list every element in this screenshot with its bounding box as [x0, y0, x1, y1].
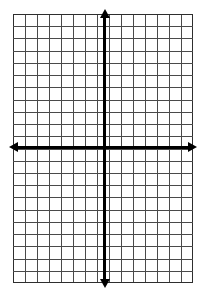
- grid-hline: [13, 173, 193, 174]
- grid-hline: [13, 185, 193, 186]
- grid-hline: [13, 51, 193, 52]
- grid-hline: [13, 26, 193, 27]
- grid-hline: [13, 112, 193, 113]
- grid-hline: [13, 100, 193, 101]
- grid-hline: [13, 149, 193, 150]
- grid-hline: [13, 222, 193, 223]
- grid-hline: [13, 259, 193, 260]
- grid-hline: [13, 75, 193, 76]
- grid-hline: [13, 246, 193, 247]
- grid-hline: [13, 197, 193, 198]
- grid-hline: [13, 63, 193, 64]
- grid-hline: [13, 282, 193, 283]
- coordinate-grid: [13, 14, 193, 283]
- grid-hline: [13, 271, 193, 272]
- grid-lines: [13, 14, 193, 283]
- grid-hline: [13, 124, 193, 125]
- grid-hline: [13, 210, 193, 211]
- grid-hline: [13, 38, 193, 39]
- grid-hline: [13, 87, 193, 88]
- grid-hline: [13, 136, 193, 137]
- worksheet-page: [0, 0, 207, 297]
- grid-hline: [13, 14, 193, 15]
- grid-hline: [13, 161, 193, 162]
- grid-hline: [13, 234, 193, 235]
